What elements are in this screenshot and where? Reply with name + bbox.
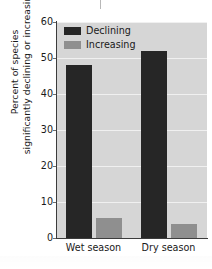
x-axis-tick-label: Dry season (129, 242, 209, 253)
y-axis-tick-label: 0 (31, 233, 53, 243)
bar-chart-figure: Percent of species significantly declini… (0, 0, 212, 269)
gridline (57, 22, 207, 23)
y-axis-tick-label: 40 (31, 89, 53, 99)
legend-label-declining: Declining (86, 26, 131, 36)
scan-artifact-tick (100, 0, 101, 9)
legend-swatch-declining-icon (64, 27, 81, 35)
y-axis-title-line-1: Percent of species (9, 0, 21, 154)
y-axis-line (56, 21, 57, 239)
gridline (57, 58, 207, 59)
scan-smudge (0, 256, 212, 269)
legend-item-increasing: Increasing (64, 39, 136, 51)
plot-area (57, 22, 207, 238)
y-axis-tick-label: 50 (31, 53, 53, 63)
y-axis-tick-label: 20 (31, 161, 53, 171)
legend-swatch-increasing-icon (64, 41, 81, 49)
y-axis-tick-label: 60 (31, 17, 53, 27)
y-axis-tick-labels: 0102030405060 (29, 0, 53, 269)
x-axis-line (56, 238, 208, 239)
x-axis-tick-label: Wet season (54, 242, 134, 253)
bar-declining-wet (66, 65, 92, 238)
bar-increasing-wet (96, 218, 122, 238)
legend-label-increasing: Increasing (86, 40, 136, 50)
legend: Declining Increasing (64, 25, 136, 51)
y-axis-tick-label: 30 (31, 125, 53, 135)
bar-declining-dry (141, 51, 167, 238)
bar-increasing-dry (171, 224, 197, 238)
y-axis-tick-label: 10 (31, 197, 53, 207)
legend-item-declining: Declining (64, 25, 136, 37)
